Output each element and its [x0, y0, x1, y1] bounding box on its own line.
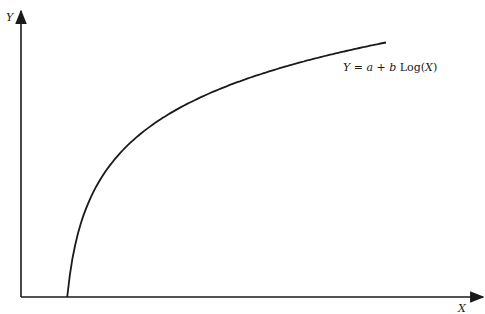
- equation-part: =: [350, 61, 366, 74]
- equation-part: b: [389, 61, 396, 74]
- equation-part: ): [433, 61, 437, 74]
- equation-part: +: [373, 61, 389, 74]
- chart: Y X Y = a + b Log(X): [0, 0, 485, 314]
- series-line-log-curve: [67, 43, 386, 298]
- x-axis-label: X: [457, 302, 467, 314]
- equation-annotation: Y = a + b Log(X): [343, 61, 437, 74]
- y-axis-label: Y: [6, 11, 15, 24]
- equation-part: Log(: [396, 61, 425, 74]
